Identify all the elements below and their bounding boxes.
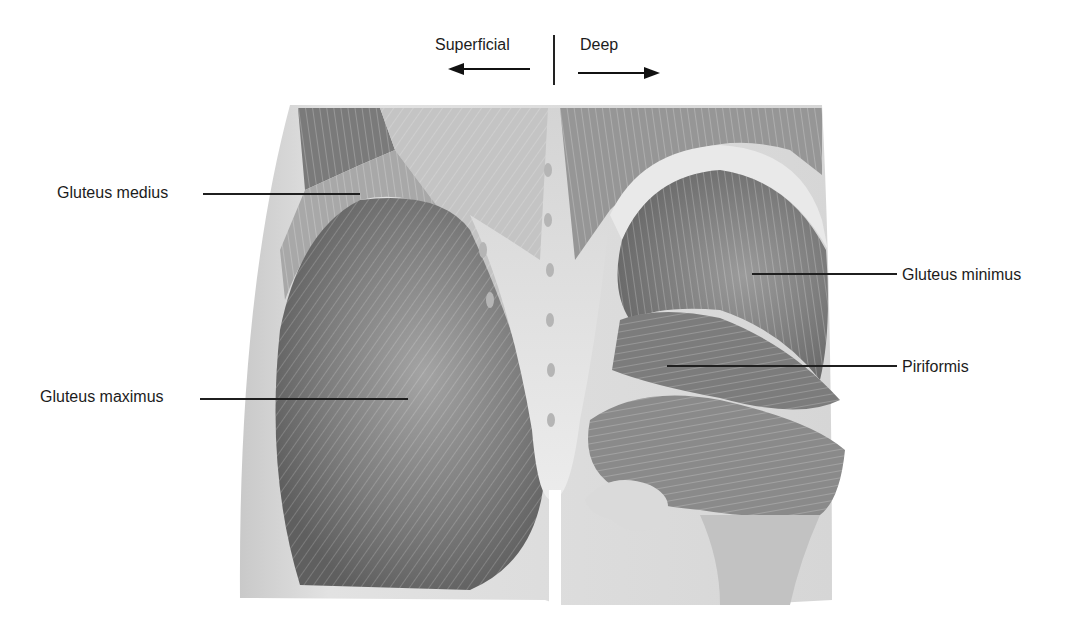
superficial-label: Superficial	[435, 36, 510, 54]
divider-line	[553, 35, 555, 85]
deep-label: Deep	[580, 36, 618, 54]
arrow-left-icon	[448, 62, 530, 76]
arrow-right-icon	[578, 66, 660, 80]
leader-line-gluteus-minimus	[752, 273, 897, 275]
leader-line-piriformis	[667, 365, 897, 367]
anatomy-illustration	[0, 0, 1092, 631]
leader-line-gluteus-medius	[203, 193, 360, 195]
label-gluteus-minimus: Gluteus minimus	[902, 266, 1021, 284]
leader-line-gluteus-maximus	[200, 398, 408, 400]
label-gluteus-medius: Gluteus medius	[57, 184, 168, 202]
label-piriformis: Piriformis	[902, 358, 969, 376]
label-gluteus-maximus: Gluteus maximus	[40, 388, 164, 406]
